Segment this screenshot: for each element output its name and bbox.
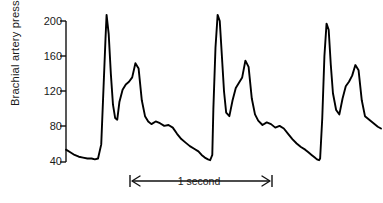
- scalebar-group: [130, 175, 272, 187]
- plot-area: [0, 0, 383, 203]
- figure-brachial-artery-pressure: Brachial artery pressure (mm.Hg) 200 160…: [0, 0, 383, 203]
- pressure-waveform-trace: [66, 15, 381, 160]
- y-axis-spine-group: [60, 21, 66, 162]
